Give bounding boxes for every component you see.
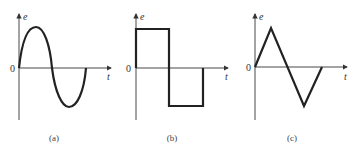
origin-label: 0 <box>10 63 15 74</box>
y-axis-label: e <box>140 11 145 22</box>
panel-b-square: e t 0 (b) <box>126 11 228 143</box>
caption-a: (a) <box>49 133 59 143</box>
origin-label: 0 <box>126 63 131 74</box>
origin-label: 0 <box>246 62 251 73</box>
x-axis-label: t <box>225 71 228 82</box>
y-axis-label: e <box>259 11 264 22</box>
panel-c-triangle: e t 0 (c) <box>246 11 347 143</box>
waveform-figure: e t 0 (a) e t 0 (b) e t 0 (c) <box>0 0 356 149</box>
panel-a-sine: e t 0 (a) <box>10 11 111 143</box>
caption-c: (c) <box>287 133 297 143</box>
x-axis-label: t <box>107 71 110 82</box>
caption-b: (b) <box>167 133 178 143</box>
x-axis-label: t <box>344 71 347 82</box>
square-wave <box>136 29 203 106</box>
sine-wave <box>19 27 86 107</box>
y-axis-label: e <box>23 11 28 22</box>
